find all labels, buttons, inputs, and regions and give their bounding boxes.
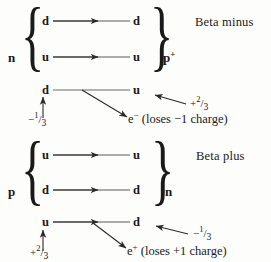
left-charge-label: +2/3 (30, 247, 48, 258)
quark-right-row2: u (133, 51, 140, 64)
emitted-particle-label: e− (loses −1 charge) (128, 111, 228, 126)
beta-decay-figure: n { d u d d u u } p+ Beta minus −1/3 +2/… (0, 0, 271, 262)
final-nucleon-superscript: + (170, 49, 175, 59)
quark-left-row2: d (42, 184, 49, 197)
left-charge-fraction: 1/3 (34, 114, 46, 125)
quark-left-row1: u (42, 149, 49, 162)
left-charge-fraction: 2/3 (36, 247, 48, 258)
final-nucleon-label: n (165, 184, 172, 198)
quark-left-row3: u (42, 216, 49, 229)
quark-left-row2: u (42, 51, 49, 64)
initial-nucleon-symbol: p (8, 184, 15, 199)
initial-nucleon-symbol: n (8, 50, 15, 65)
emitted-particle-label: e+ (loses +1 charge) (127, 243, 227, 258)
opening-brace: { (21, 0, 44, 75)
final-nucleon-symbol: n (165, 184, 172, 199)
right-charge-denominator: 3 (207, 232, 212, 242)
beta-minus-diagram: n { d u d d u u } p+ Beta minus −1/3 +2/… (0, 0, 271, 131)
quark-right-row1: u (133, 149, 140, 162)
quark-right-row1: d (133, 15, 140, 28)
left-charge-label: −1/3 (28, 114, 46, 125)
right-charge-fraction: 2/3 (196, 98, 208, 109)
right-charge-label: +2/3 (190, 98, 208, 109)
opening-brace: { (21, 131, 44, 209)
diagram-title: Beta minus (195, 16, 254, 29)
initial-nucleon-label: n (8, 50, 15, 64)
quark-left-row3: d (42, 84, 49, 97)
diagram-title: Beta plus (196, 150, 245, 163)
initial-nucleon-label: p (8, 184, 15, 198)
emitted-particle-text: (loses −1 charge) (142, 112, 228, 126)
final-nucleon-label: p+ (163, 50, 175, 64)
quark-right-row3: u (133, 84, 140, 97)
quark-right-row2: d (133, 184, 140, 197)
right-charge-fraction: 1/3 (199, 228, 211, 239)
beta-plus-diagram: p { u d u u d d } n Beta plus +2/3 −1/3 … (0, 131, 271, 262)
right-charge-label: −1/3 (193, 228, 211, 239)
quark-left-row1: d (42, 15, 49, 28)
emitted-particle-superscript: + (133, 242, 138, 252)
left-charge-denominator: 3 (44, 251, 49, 261)
emitted-particle-superscript: − (134, 110, 139, 120)
emitted-particle-text: (loses +1 charge) (141, 244, 227, 258)
quark-right-row3: d (133, 216, 140, 229)
